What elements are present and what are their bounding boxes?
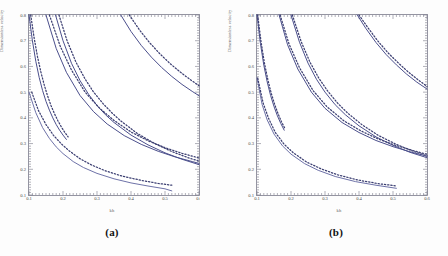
svg-text:0.4: 0.4 [248,115,254,120]
y-axis-label-a: Dimensionless velocity [0,0,4,52]
svg-text:0.5: 0.5 [162,196,168,201]
svg-text:0.7: 0.7 [248,38,254,43]
svg-text:0.5: 0.5 [20,90,26,95]
svg-text:0.8: 0.8 [248,13,254,18]
svg-text:0.6: 0.6 [20,64,26,69]
y-axis-label-b: Dimensionless velocity [227,0,232,52]
plot-svg-b [256,14,428,196]
svg-text:0.4: 0.4 [20,115,26,120]
svg-text:0.6: 0.6 [248,64,254,69]
panel-row: Dimensionless velocity 0.10.20.30.40.50.… [0,0,448,256]
svg-text:0.6: 0.6 [196,196,200,201]
svg-text:0.2: 0.2 [288,196,294,201]
plot-area-b: 0.10.20.30.40.50.60.10.20.30.40.50.60.70… [256,14,428,196]
svg-text:0.3: 0.3 [20,141,26,146]
svg-text:0.1: 0.1 [26,196,32,201]
svg-text:0.5: 0.5 [248,90,254,95]
svg-text:0.3: 0.3 [94,196,100,201]
panel-caption-b: (b) [224,226,448,238]
svg-text:0.2: 0.2 [20,167,26,172]
plot-area-a: 0.10.20.30.40.50.60.10.20.30.40.50.60.70… [28,14,200,196]
svg-text:0.3: 0.3 [322,196,328,201]
svg-text:0.1: 0.1 [248,193,254,198]
plot-frame-b [257,15,428,196]
svg-text:0.8: 0.8 [20,13,26,18]
svg-text:0.7: 0.7 [20,38,26,43]
svg-text:0.1: 0.1 [20,193,26,198]
svg-text:0.3: 0.3 [248,141,254,146]
svg-text:0.2: 0.2 [60,196,66,201]
x-axis-label-a: kh [0,208,224,213]
panel-caption-a: (a) [0,226,224,238]
figure-container: Dimensionless velocity 0.10.20.30.40.50.… [0,0,448,256]
panel-b: Dimensionless velocity 0.10.20.30.40.50.… [224,0,448,256]
svg-text:0.6: 0.6 [424,196,430,201]
svg-text:0.4: 0.4 [356,196,362,201]
svg-text:0.4: 0.4 [128,196,134,201]
plot-svg-a [28,14,200,196]
panel-a: Dimensionless velocity 0.10.20.30.40.50.… [0,0,224,256]
svg-text:0.1: 0.1 [254,196,260,201]
svg-text:0.2: 0.2 [248,167,254,172]
x-axis-label-b: kh [224,208,448,213]
svg-text:0.5: 0.5 [390,196,396,201]
